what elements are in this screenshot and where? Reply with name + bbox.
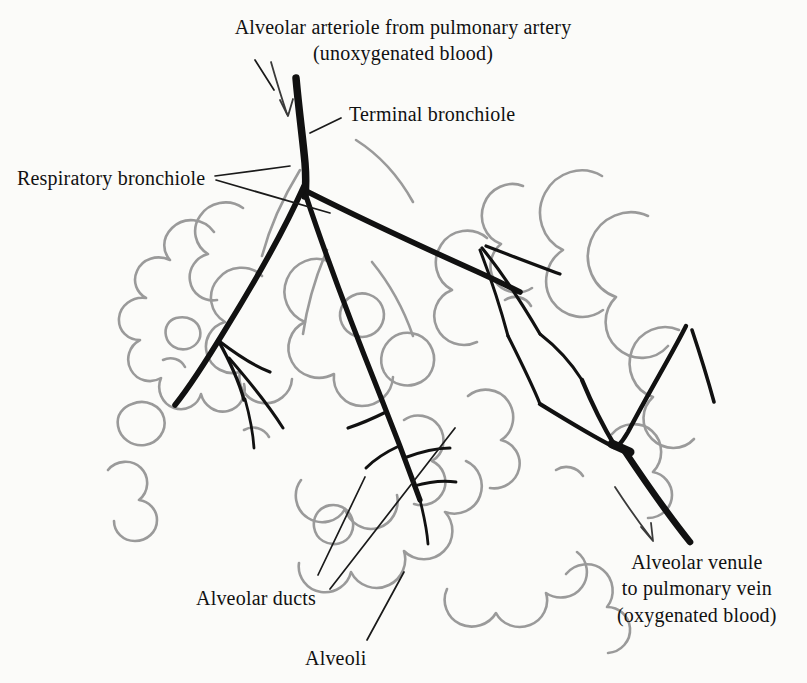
- alveolar-sac-right-outer: [588, 212, 668, 358]
- terminal-bronchiole-trunk: [296, 78, 306, 196]
- arterial-flow-arrowhead: [280, 99, 293, 116]
- right-branch-main: [308, 192, 520, 292]
- alveolar-scallop-lower-left: [108, 462, 157, 541]
- alveolar-bottom-right-lobe: [445, 552, 587, 627]
- left-branch-twig-4: [245, 399, 254, 448]
- right-fan-twig-5: [508, 336, 540, 404]
- label-alveolar-venule-line2: to pulmonary vein: [617, 575, 777, 601]
- venule-tributary-mid: [582, 380, 615, 446]
- middle-branch-twig-1: [348, 412, 386, 428]
- right-fan-twig-4: [540, 334, 582, 380]
- venule-tributary-upper-right: [692, 330, 714, 402]
- alveolar-scallop-mid: [404, 415, 445, 505]
- alveolar-scallop-mid-right: [468, 390, 520, 489]
- leader-alveolar-ducts-b: [330, 428, 455, 589]
- label-respiratory-bronchiole: Respiratory bronchiole: [17, 165, 205, 191]
- leader-terminal-bronchiole: [310, 118, 341, 133]
- alveolar-cluster-left-lower: [118, 402, 165, 445]
- alveolar-sac-center-mid: [381, 333, 434, 386]
- label-alveolar-arteriole: Alveolar arteriole from pulmonary artery…: [235, 14, 572, 67]
- alveolus-detail-2: [244, 428, 269, 437]
- middle-branch-twig-2: [366, 446, 399, 468]
- alveolus-detail-5: [356, 140, 413, 202]
- alveolus-detail-4: [556, 467, 583, 476]
- alveolar-duct-branch-middle: [306, 196, 420, 500]
- label-alveolar-venule-line3: (oxygenated blood): [617, 602, 777, 628]
- alveolar-cluster-left: [119, 220, 245, 412]
- middle-branch-twig-3: [404, 448, 450, 458]
- label-alveolar-arteriole-line2: (unoxygenated blood): [235, 40, 572, 66]
- label-alveolar-venule-line1: Alveolar venule: [617, 549, 777, 575]
- label-alveoli: Alveoli: [305, 645, 366, 671]
- flow-arrows: [271, 62, 653, 541]
- label-terminal-bronchiole: Terminal bronchiole: [349, 101, 515, 127]
- leader-alveoli: [367, 572, 404, 640]
- alveolar-venule-trunk: [624, 450, 690, 542]
- alveolar-cluster-right-upper: [434, 231, 487, 345]
- alveolar-sac-duct-left: [314, 505, 353, 544]
- left-branch-twig-3: [229, 358, 283, 428]
- alveolar-circulation-figure: .alv { fill:none; stroke:#9a9a9a; stroke…: [0, 0, 807, 683]
- venule-tributary-right: [617, 326, 686, 447]
- leader-respiratory-bronchiole-a: [215, 166, 290, 176]
- middle-branch-twig-4: [414, 481, 456, 486]
- label-alveolar-arteriole-line1: Alveolar arteriole from pulmonary artery: [235, 14, 572, 40]
- venous-flow-arrow: [615, 487, 651, 538]
- alveolar-cluster-left-inner: [166, 317, 201, 349]
- label-alveolar-ducts: Alveolar ducts: [196, 585, 316, 611]
- label-alveolar-venule: Alveolar venule to pulmonary vein (oxyge…: [617, 549, 777, 628]
- alveolar-sac-right-lower: [630, 327, 694, 448]
- alveolar-sac-right-big: [540, 170, 603, 317]
- alveolus-detail-1: [163, 358, 185, 367]
- alveolus-detail-7: [303, 250, 327, 334]
- label-leader-lines: [215, 60, 455, 640]
- middle-branch-twig-5: [420, 500, 428, 544]
- alveolar-sac-upper-left: [190, 202, 243, 300]
